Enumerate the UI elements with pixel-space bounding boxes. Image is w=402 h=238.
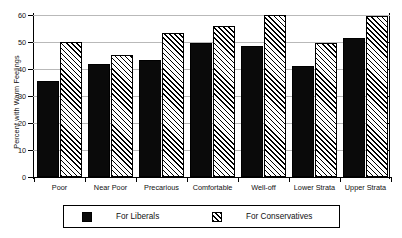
bar: [241, 46, 264, 177]
bar: [366, 16, 389, 177]
x-tick-mark: [34, 177, 35, 182]
x-tick-mark: [340, 177, 341, 182]
y-tick-mark: [28, 15, 33, 16]
bar: [315, 43, 338, 177]
y-tick-mark: [28, 177, 33, 178]
bar: [111, 55, 134, 177]
x-axis-category-label: Well-off: [251, 183, 275, 192]
y-tick-label: 0: [0, 173, 26, 182]
y-tick-label: 60: [0, 11, 26, 20]
y-tick-mark: [28, 96, 33, 97]
legend-label: For Conservatives: [246, 212, 312, 221]
bar: [213, 26, 236, 177]
bar-group: [238, 15, 289, 177]
legend-label: For Liberals: [116, 212, 159, 221]
bar: [343, 38, 366, 177]
y-tick-label: 50: [0, 38, 26, 47]
y-tick-mark: [28, 42, 33, 43]
bar-group: [289, 15, 340, 177]
x-axis-category-label: Lower Strata: [294, 183, 335, 192]
bar: [37, 81, 60, 177]
x-tick-mark: [238, 177, 239, 182]
y-tick-label: 40: [0, 65, 26, 74]
bar: [139, 60, 162, 177]
bar: [60, 42, 83, 177]
x-tick-mark: [187, 177, 188, 182]
bar: [190, 43, 213, 177]
bar: [264, 15, 287, 177]
x-tick-mark: [136, 177, 137, 182]
legend-swatch: [82, 212, 92, 222]
x-axis-category-label: Precarious: [144, 183, 179, 192]
x-axis-category-label: Comfortable: [193, 183, 233, 192]
x-axis-category-label: Poor: [52, 183, 67, 192]
y-tick-label: 30: [0, 92, 26, 101]
x-axis-category-label: Near Poor: [94, 183, 127, 192]
legend-swatch: [212, 212, 222, 222]
plot-area: [34, 15, 390, 177]
x-tick-mark: [289, 177, 290, 182]
x-tick-mark: [391, 177, 392, 182]
y-tick-mark: [28, 123, 33, 124]
bar: [88, 64, 111, 177]
bar-group: [340, 15, 391, 177]
bar-group: [34, 15, 85, 177]
y-tick-mark: [28, 69, 33, 70]
bar-group: [136, 15, 187, 177]
legend-entry: For Conservatives: [212, 212, 312, 222]
y-tick-mark: [28, 150, 33, 151]
chart-legend: For LiberalsFor Conservatives: [63, 205, 340, 228]
bar-chart: Percent with Warm Feelings 0102030405060…: [0, 0, 402, 238]
x-axis-category-label: Upper Strata: [345, 183, 386, 192]
bar-group: [85, 15, 136, 177]
bar-group: [187, 15, 238, 177]
bar: [162, 33, 185, 177]
bar: [292, 66, 315, 177]
y-tick-label: 20: [0, 119, 26, 128]
y-tick-label: 10: [0, 146, 26, 155]
legend-entry: For Liberals: [82, 212, 159, 222]
x-axis-line: [33, 177, 391, 178]
x-tick-mark: [85, 177, 86, 182]
